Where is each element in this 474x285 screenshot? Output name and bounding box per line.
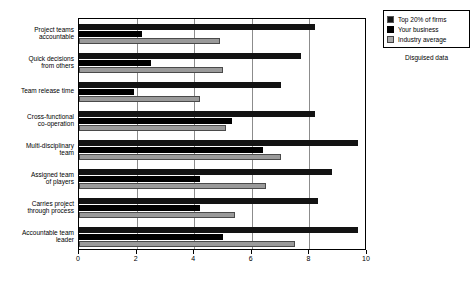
x-axis-tick <box>78 250 79 254</box>
x-axis-tick <box>136 250 137 254</box>
bar <box>79 205 200 211</box>
bar-group <box>79 164 365 193</box>
y-axis-label: Multi-disciplinary team <box>0 141 74 156</box>
legend-item: Your business <box>387 24 465 34</box>
legend-caption: Disguised data <box>383 54 470 61</box>
x-axis-tick-label: 4 <box>191 255 195 262</box>
bar <box>79 67 223 73</box>
bar <box>79 125 226 131</box>
bar <box>79 227 358 233</box>
y-axis-label: Project teams accountable <box>0 25 74 40</box>
bar <box>79 140 358 146</box>
bar <box>79 154 281 160</box>
x-axis-tick <box>193 250 194 254</box>
legend-swatch-icon <box>387 16 394 23</box>
bar <box>79 118 232 124</box>
x-axis-tick-label: 0 <box>76 255 80 262</box>
bar <box>79 89 134 95</box>
bar-group <box>79 106 365 135</box>
y-axis-label: Cross-functional co-operation <box>0 112 74 127</box>
x-axis: 0246810 <box>78 250 366 268</box>
bar-group <box>79 77 365 106</box>
x-axis-tick <box>366 250 367 254</box>
y-axis-label: Team release time <box>0 87 74 95</box>
bar <box>79 60 151 66</box>
bar <box>79 169 332 175</box>
legend-item: Top 20% of firms <box>387 14 465 24</box>
legend-swatch-icon <box>387 26 394 33</box>
legend-label: Top 20% of firms <box>398 16 446 23</box>
bar <box>79 24 315 30</box>
chart-root: Project teams accountableQuick decisions… <box>0 0 474 285</box>
x-axis-tick-label: 6 <box>249 255 253 262</box>
y-axis-label: Assigned team of players <box>0 170 74 185</box>
bar <box>79 53 301 59</box>
plot-area <box>78 18 366 250</box>
chart-legend: Top 20% of firmsYour businessIndustry av… <box>383 10 470 48</box>
bar-group <box>79 222 365 251</box>
x-axis-tick <box>308 250 309 254</box>
bar <box>79 234 223 240</box>
bar <box>79 147 263 153</box>
legend-item: Industry average <box>387 34 465 44</box>
y-axis-label: Accountable team leader <box>0 228 74 243</box>
bar <box>79 212 235 218</box>
x-axis-tick-label: 2 <box>134 255 138 262</box>
bar-series-layer <box>79 19 365 249</box>
bar <box>79 82 281 88</box>
bar <box>79 38 220 44</box>
x-axis-tick-label: 10 <box>362 255 370 262</box>
y-axis-label-group: Project teams accountableQuick decisions… <box>0 18 74 250</box>
legend-swatch-icon <box>387 36 394 43</box>
bar-group <box>79 193 365 222</box>
y-axis-label: Carries project through process <box>0 199 74 214</box>
bar <box>79 176 200 182</box>
legend-label: Industry average <box>398 36 446 43</box>
bar-group <box>79 135 365 164</box>
bar <box>79 198 318 204</box>
bar <box>79 31 142 37</box>
y-axis-label: Quick decisions from others <box>0 54 74 69</box>
legend-label: Your business <box>398 26 439 33</box>
x-axis-tick <box>251 250 252 254</box>
x-axis-tick-label: 8 <box>306 255 310 262</box>
bar <box>79 241 295 247</box>
bar <box>79 96 200 102</box>
bar <box>79 111 315 117</box>
bar-group <box>79 19 365 48</box>
bar <box>79 183 266 189</box>
bar-group <box>79 48 365 77</box>
